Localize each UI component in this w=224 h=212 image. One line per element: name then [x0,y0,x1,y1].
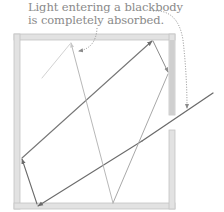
light-rays [22,41,213,206]
ray-7 [42,44,70,78]
blackbody-diagram [0,0,224,212]
ray-5 [113,74,168,203]
ray-2 [22,159,37,204]
ray-1 [38,141,142,206]
right-wall-upper-shade [170,40,175,115]
cavity-walls [14,34,175,209]
ray-4 [153,41,168,72]
ray-3 [22,41,152,158]
incoming-ray [142,93,213,141]
right-wall-lower [169,130,175,209]
left-wall [14,34,20,209]
ray-6 [71,43,113,203]
